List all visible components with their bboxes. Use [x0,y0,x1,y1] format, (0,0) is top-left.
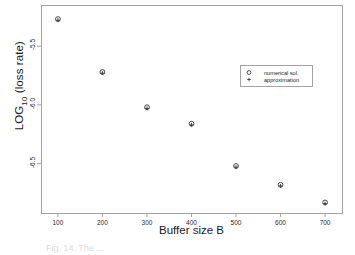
figure-panel: numerical sol.approximation LOG10 (loss … [0,0,355,255]
y-axis-title-subscript: 10 [20,97,29,106]
plot-frame [42,6,343,214]
y-axis-title-rest: (loss rate) [13,41,25,97]
x-tick-label-500: 500 [224,219,248,226]
y-tick-label--6.0: -6.0 [29,92,36,114]
x-tick-label-100: 100 [46,219,70,226]
y-axis-title: LOG10 (loss rate) [13,21,28,151]
scatter-plot-canvas: numerical sol.approximation [0,0,355,255]
figure-caption-partial: Fig. 14. The ... [46,243,104,253]
x-tick-label-300: 300 [135,219,159,226]
x-tick-label-200: 200 [90,219,114,226]
y-tick-label--5.5: -5.5 [29,34,36,56]
x-tick-label-600: 600 [269,219,293,226]
legend-label-circle: numerical sol. [264,70,299,76]
x-tick-label-400: 400 [180,219,204,226]
legend-label-plus: approximation [264,77,299,83]
y-axis-title-base: LOG [13,106,25,131]
y-tick-label--6.5: -6.5 [29,151,36,173]
x-tick-label-700: 700 [313,219,337,226]
